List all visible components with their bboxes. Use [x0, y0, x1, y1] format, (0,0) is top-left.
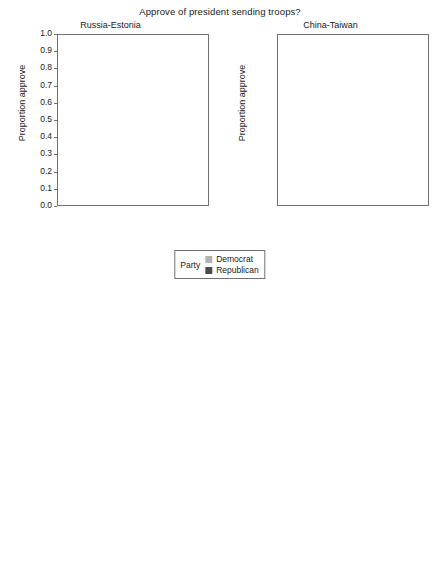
panel-title: China-Taiwan	[228, 20, 433, 30]
y-tick-label: 0.4	[26, 131, 52, 141]
democrat-swatch-icon	[205, 256, 212, 263]
panel-china-taiwan: China-Taiwan Proportion approve	[228, 20, 433, 240]
y-tick-label: 0.1	[26, 183, 52, 193]
y-tick-label: 1.0	[26, 28, 52, 38]
panel-group: Russia-Estonia Proportion approve 0.00.1…	[0, 20, 440, 240]
section-title: Approve of president sending troops?	[0, 6, 440, 17]
panel-russia-estonia: Russia-Estonia Proportion approve 0.00.1…	[8, 20, 213, 240]
y-tick-mark	[54, 206, 57, 207]
legend-item-democrat: Democrat	[205, 254, 259, 264]
legend-item-republican: Republican	[205, 265, 259, 275]
y-tick-label: 0.3	[26, 148, 52, 158]
y-tick-label: 0.5	[26, 114, 52, 124]
section-troops: Approve of president sending troops? Rus…	[0, 0, 440, 294]
y-tick-label: 0.6	[26, 97, 52, 107]
legend: Party Democrat Republican	[174, 250, 265, 279]
bars-layer	[278, 35, 428, 205]
y-tick-label: 0.2	[26, 166, 52, 176]
legend-label: Democrat	[216, 254, 253, 264]
legend-title: Party	[180, 260, 200, 270]
x-axis	[277, 208, 429, 238]
y-axis-label: Proportion approve	[237, 43, 247, 163]
plot-area	[277, 34, 429, 206]
republican-swatch-icon	[205, 267, 212, 274]
y-tick-label: 0.0	[26, 200, 52, 210]
bars-layer	[58, 35, 208, 205]
y-tick-label: 0.9	[26, 45, 52, 55]
y-tick-label: 0.8	[26, 62, 52, 72]
legend-label: Republican	[216, 265, 259, 275]
y-tick-label: 0.7	[26, 80, 52, 90]
figure-root: Approve of president sending troops? Rus…	[0, 0, 440, 588]
x-axis	[57, 208, 209, 238]
legend-items: Democrat Republican	[205, 254, 259, 275]
plot-area	[57, 34, 209, 206]
